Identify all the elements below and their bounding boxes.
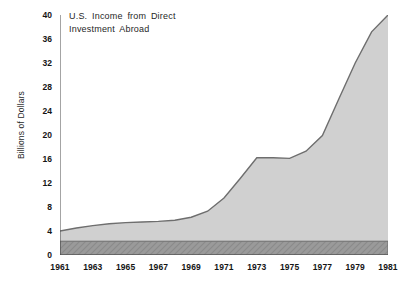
y-tick-label: 0 [26, 251, 52, 259]
y-tick-label: 8 [26, 203, 52, 211]
y-tick-label: 4 [26, 227, 52, 235]
y-tick-label: 40 [26, 11, 52, 19]
y-tick-label: 12 [26, 179, 52, 187]
x-tick-label: 1981 [368, 262, 406, 272]
y-tick-label: 24 [26, 107, 52, 115]
area-series-base [60, 241, 388, 255]
chart-title: U.S. Income from Direct Investment Abroa… [69, 10, 176, 35]
plot-area [60, 15, 388, 255]
y-axis-title: Billions of Dollars [16, 65, 26, 185]
y-tick-label: 20 [26, 131, 52, 139]
y-tick-label: 32 [26, 59, 52, 67]
area-series-income [60, 15, 388, 255]
y-tick-label: 36 [26, 35, 52, 43]
y-axis-tick-labels: 0 4 8 12 16 20 24 28 32 36 40 [26, 0, 52, 287]
chart-svg [60, 15, 388, 255]
y-tick-label: 16 [26, 155, 52, 163]
chart-container: Billions of Dollars 0 4 8 12 16 20 24 28… [0, 0, 406, 287]
y-tick-label: 28 [26, 83, 52, 91]
